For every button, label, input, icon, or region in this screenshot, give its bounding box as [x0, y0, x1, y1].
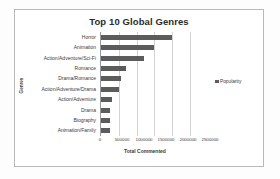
- chart-frame: Top 10 Global Genres Genres Horror Anima…: [14, 9, 264, 167]
- plot-area: [100, 32, 190, 136]
- category-label: Action/Adventure/Drama: [29, 84, 99, 94]
- bar-horror: [101, 35, 172, 40]
- category-label: Horror: [29, 32, 99, 42]
- category-label: Animation/Family: [29, 126, 99, 136]
- x-tick-label: 1000000: [135, 137, 152, 142]
- bar-row: [101, 32, 190, 42]
- bar-biography: [101, 118, 110, 123]
- bar-row: [101, 53, 190, 63]
- bar-row: [101, 74, 190, 84]
- category-label: Action/Adventure/Sci-Fi: [29, 53, 99, 63]
- bar-animation: [101, 45, 154, 50]
- category-label: Biography: [29, 115, 99, 125]
- bar-action-adventure: [101, 97, 112, 102]
- plot-wrapper: Genres Horror Animation Action/Adventure…: [15, 32, 263, 166]
- category-label: Drama: [29, 105, 99, 115]
- bar-series-popularity: [101, 32, 190, 136]
- x-tick-label: 0: [99, 137, 101, 142]
- x-tick-label: 500000: [115, 137, 130, 142]
- bar-action-adventure-sci-fi: [101, 56, 144, 61]
- y-axis-category-labels: Horror Animation Action/Adventure/Sci-Fi…: [29, 32, 99, 136]
- bar-action-adventure-drama: [101, 87, 119, 92]
- chart-screenshot: Top 10 Global Genres Genres Horror Anima…: [0, 0, 280, 179]
- legend-swatch-icon: [215, 80, 219, 84]
- category-label: Animation: [29, 42, 99, 52]
- gridline: [190, 32, 191, 136]
- category-label: Romance: [29, 63, 99, 73]
- bar-romance: [101, 66, 126, 71]
- bar-row: [101, 63, 190, 73]
- category-label: Action/Adventure: [29, 94, 99, 104]
- bar-drama-romance: [101, 76, 121, 81]
- chart-title: Top 10 Global Genres: [15, 16, 263, 27]
- x-tick-label: 2000000: [179, 137, 196, 142]
- x-axis-tick-labels: 05000001000000150000020000002500000: [100, 137, 210, 147]
- bar-row: [101, 126, 190, 136]
- y-axis-title: Genres: [16, 62, 28, 108]
- bar-row: [101, 105, 190, 115]
- legend-label: Popularity: [220, 79, 241, 84]
- bar-row: [101, 94, 190, 104]
- y-axis-title-text: Genres: [20, 77, 25, 93]
- x-tick-label: 2500000: [201, 137, 218, 142]
- bar-row: [101, 42, 190, 52]
- x-tick-label: 1500000: [157, 137, 174, 142]
- bar-drama: [101, 108, 110, 113]
- x-axis-title: Total Commented: [85, 148, 205, 154]
- category-label: Drama/Romance: [29, 74, 99, 84]
- bar-row: [101, 115, 190, 125]
- bar-row: [101, 84, 190, 94]
- legend: Popularity: [215, 79, 241, 84]
- bar-animation-family: [101, 128, 110, 133]
